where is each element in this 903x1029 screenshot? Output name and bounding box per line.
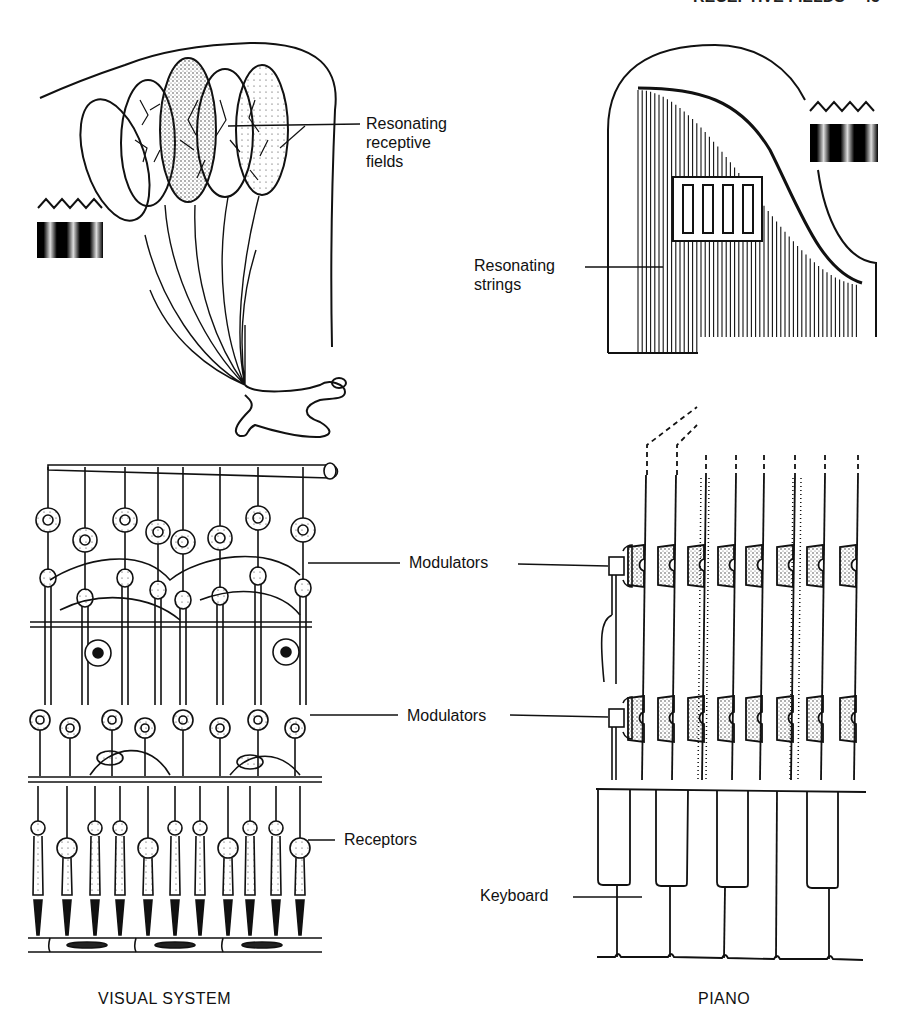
label-line: Resonating bbox=[474, 256, 555, 275]
left-grating-stimulus-icon bbox=[37, 199, 103, 258]
illustration-canvas bbox=[0, 0, 903, 1029]
caption-piano: PIANO bbox=[698, 990, 750, 1008]
label-line: strings bbox=[474, 275, 555, 294]
caption-visual-system: VISUAL SYSTEM bbox=[98, 990, 231, 1008]
string-frame bbox=[673, 177, 762, 241]
label-receptors: Receptors bbox=[344, 830, 417, 849]
label-resonating-strings: Resonating strings bbox=[474, 256, 555, 294]
label-resonating-receptive-fields: Resonating receptive fields bbox=[366, 114, 447, 171]
right-grating-stimulus-icon bbox=[810, 102, 878, 162]
retina-diagram bbox=[28, 463, 338, 952]
leader-modulators-upper-right bbox=[518, 564, 608, 566]
label-keyboard: Keyboard bbox=[480, 886, 549, 905]
piano-action bbox=[628, 407, 858, 780]
keyboard bbox=[596, 789, 866, 960]
label-modulators-lower: Modulators bbox=[407, 706, 486, 725]
label-line: receptive bbox=[366, 133, 447, 152]
leader-modulators-lower-right bbox=[510, 715, 608, 717]
label-line: Resonating bbox=[366, 114, 447, 133]
label-line: fields bbox=[366, 152, 447, 171]
label-modulators-upper: Modulators bbox=[409, 553, 488, 572]
